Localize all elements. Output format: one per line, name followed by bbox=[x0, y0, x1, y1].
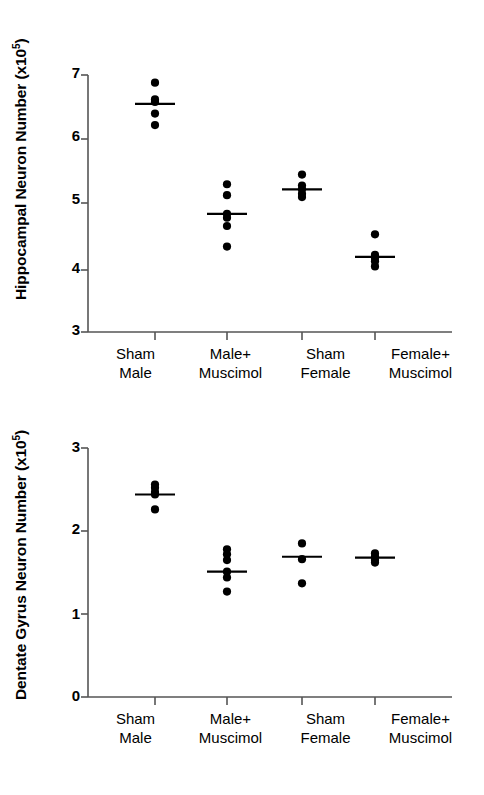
data-point bbox=[151, 121, 159, 129]
data-group-1 bbox=[135, 79, 175, 130]
data-group-1 bbox=[135, 480, 175, 513]
data-group-4 bbox=[355, 230, 395, 270]
x-category-line2: Female bbox=[278, 728, 373, 747]
data-point bbox=[151, 109, 159, 117]
x-category-line1: Sham bbox=[116, 345, 155, 362]
y-axis-ticks-dentate-gyrus bbox=[81, 448, 88, 697]
x-category-line1: Male+ bbox=[210, 710, 251, 727]
x-category-line1: Sham bbox=[306, 345, 345, 362]
x-axis-category-labels-dentate-gyrus: Sham Male Male+ Muscimol Sham Female Fem… bbox=[88, 709, 468, 747]
x-category-line2: Male bbox=[88, 728, 183, 747]
data-point bbox=[298, 539, 306, 547]
data-point bbox=[223, 222, 231, 230]
figure-root: Hippocampal Neuron Number (x105) 7 6 5 4… bbox=[0, 0, 484, 795]
x-category-line2: Muscimol bbox=[183, 363, 278, 382]
data-point bbox=[371, 558, 379, 566]
x-category-female-muscimol: Female+ Muscimol bbox=[373, 709, 468, 747]
data-group-2 bbox=[207, 180, 247, 251]
data-points-dentate-gyrus bbox=[135, 480, 395, 595]
data-point bbox=[223, 191, 231, 199]
data-point bbox=[223, 587, 231, 595]
data-group-2 bbox=[207, 545, 247, 596]
data-point bbox=[223, 573, 231, 581]
x-axis-ticks-hippocampal bbox=[155, 332, 375, 340]
x-category-male-muscimol: Male+ Muscimol bbox=[183, 709, 278, 747]
data-point bbox=[151, 505, 159, 513]
y-axis-ticks-hippocampal bbox=[81, 75, 88, 332]
data-point bbox=[223, 242, 231, 250]
x-category-male-muscimol: Male+ Muscimol bbox=[183, 344, 278, 382]
x-category-line2: Female bbox=[278, 363, 373, 382]
data-point bbox=[298, 193, 306, 201]
x-category-line2: Male bbox=[88, 363, 183, 382]
data-point bbox=[223, 180, 231, 188]
x-category-line2: Muscimol bbox=[183, 728, 278, 747]
x-category-line2: Muscimol bbox=[373, 363, 468, 382]
x-category-line1: Male+ bbox=[210, 345, 251, 362]
x-axis-ticks-dentate-gyrus bbox=[155, 697, 375, 705]
chart-panel-hippocampal: Hippocampal Neuron Number (x105) 7 6 5 4… bbox=[0, 0, 484, 400]
data-group-3 bbox=[282, 170, 322, 201]
x-category-line1: Female+ bbox=[391, 710, 450, 727]
x-category-sham-female: Sham Female bbox=[278, 344, 373, 382]
data-group-4 bbox=[355, 549, 395, 566]
x-category-sham-female: Sham Female bbox=[278, 709, 373, 747]
data-point bbox=[298, 170, 306, 178]
x-category-female-muscimol: Female+ Muscimol bbox=[373, 344, 468, 382]
x-axis-category-labels-hippocampal: Sham Male Male+ Muscimol Sham Female Fem… bbox=[88, 344, 468, 382]
data-point bbox=[371, 230, 379, 238]
x-category-line1: Female+ bbox=[391, 345, 450, 362]
data-points-hippocampal bbox=[135, 79, 395, 271]
data-point bbox=[223, 556, 231, 564]
x-category-sham-male: Sham Male bbox=[88, 709, 183, 747]
data-group-3 bbox=[282, 539, 322, 587]
data-point bbox=[151, 79, 159, 87]
x-category-line2: Muscimol bbox=[373, 728, 468, 747]
chart-panel-dentate-gyrus: Dentate Gyrus Neuron Number (x105) 3 2 1… bbox=[0, 390, 484, 795]
data-point bbox=[371, 262, 379, 270]
data-point bbox=[298, 579, 306, 587]
plot-area-hippocampal bbox=[0, 0, 484, 400]
x-category-line1: Sham bbox=[306, 710, 345, 727]
x-category-line1: Sham bbox=[116, 710, 155, 727]
x-category-sham-male: Sham Male bbox=[88, 344, 183, 382]
